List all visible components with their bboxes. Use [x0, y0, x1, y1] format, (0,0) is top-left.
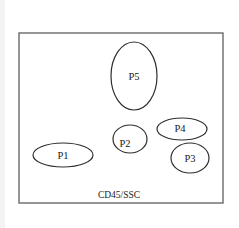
gate-p5-label: P5 [128, 71, 139, 82]
plot-frame [19, 33, 223, 203]
gate-p2-label: P2 [119, 138, 130, 149]
gate-p4-label: P4 [174, 123, 186, 134]
axis-label: CD45/SSC [98, 190, 140, 200]
gate-p3-label: P3 [184, 153, 195, 164]
flow-cytometry-gating-diagram: P5 P2 P4 P3 P1 CD45/SSC [0, 0, 239, 228]
gate-p1-label: P1 [57, 150, 68, 161]
